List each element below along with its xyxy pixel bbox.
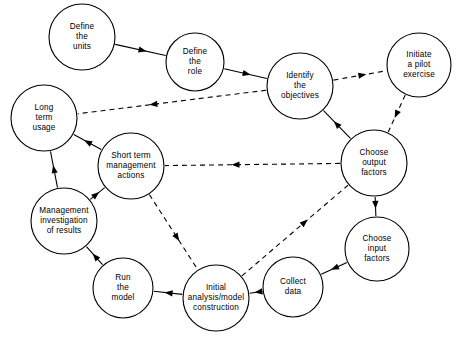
flowchart-svg: DefinetheunitsDefinetheroleIdentifytheob… <box>0 0 459 340</box>
flowchart-canvas: DefinetheunitsDefinetheroleIdentifytheob… <box>0 0 459 340</box>
node-label-line: term <box>36 113 53 122</box>
node-label: Longtermusage <box>32 104 55 132</box>
node-label-line: Initiate <box>406 51 432 60</box>
node-label-line: Long <box>35 104 54 113</box>
node-label-line: input <box>368 244 387 253</box>
node-label-line: model <box>111 293 134 302</box>
node-label-line: units <box>73 42 91 51</box>
node-label-line: the <box>76 32 88 41</box>
node-label-line: Define <box>70 23 95 32</box>
arrowhead-icon <box>84 140 93 147</box>
node-identify_objectives[interactable]: Identifytheobjectives <box>267 53 333 119</box>
node-label-line: the <box>189 57 201 66</box>
edge-choose_input-to-collect_data <box>321 263 347 275</box>
node-choose_input[interactable]: Chooseinputfactors <box>345 217 409 281</box>
node-label: Initiatea pilotexercise <box>403 51 435 79</box>
node-label-line: the <box>294 81 306 90</box>
node-collect_data[interactable]: Collectdata <box>263 257 323 317</box>
node-label-line: Run <box>115 274 131 283</box>
node-label-line: analysis/model <box>188 293 244 302</box>
arrowhead-icon <box>52 165 58 173</box>
arrowhead-icon <box>358 73 366 79</box>
node-label-line: of results <box>47 226 82 235</box>
node-label-line: management <box>106 161 156 170</box>
edge-choose_output-to-short_term_actions <box>165 162 340 168</box>
node-label-line: exercise <box>403 70 435 79</box>
edge-run_model-to-mgmt_investigation <box>86 247 102 265</box>
edge-line <box>165 163 340 165</box>
arrowhead-icon <box>242 70 250 76</box>
edge-initiate_pilot-to-choose_output <box>388 95 405 132</box>
edge-short_term_actions-to-long_term_usage <box>74 134 101 149</box>
node-label-line: Identify <box>286 72 314 81</box>
node-label-line: a pilot <box>408 60 431 69</box>
node-run_model[interactable]: Runthemodel <box>93 258 153 318</box>
edge-define_units-to-define_role <box>115 44 166 55</box>
node-long_term_usage[interactable]: Longtermusage <box>11 85 77 151</box>
edge-collect_data-to-initial_analysis <box>250 288 263 294</box>
edge-short_term_actions-to-initial_analysis <box>149 195 197 270</box>
node-label-line: Initial <box>206 284 226 293</box>
node-label-line: investigation <box>40 216 88 225</box>
edge-line <box>78 90 267 114</box>
node-label-line: Choose <box>362 235 391 244</box>
node-label-line: Short term <box>111 152 151 161</box>
arrowhead-icon <box>172 233 179 241</box>
node-label-line: Management <box>39 207 89 216</box>
node-mgmt_investigation[interactable]: Managementinvestigationof results <box>31 188 97 254</box>
node-label-line: Choose <box>359 149 388 158</box>
edge-mgmt_investigation-to-short_term_actions <box>90 188 104 200</box>
node-label-line: construction <box>193 303 239 312</box>
node-label-line: Collect <box>280 277 307 286</box>
edge-choose_output-to-identify_objectives <box>324 111 351 139</box>
node-label-line: factors <box>364 254 390 263</box>
node-label-line: role <box>188 67 203 76</box>
arrowhead-icon <box>165 290 173 296</box>
arrowhead-icon <box>372 201 378 209</box>
node-initial_analysis[interactable]: Initialanalysis/modelconstruction <box>183 265 249 331</box>
nodes-layer: DefinetheunitsDefinetheroleIdentifytheob… <box>11 4 451 331</box>
arrowhead-icon <box>231 162 239 168</box>
node-label-line: usage <box>32 123 55 132</box>
node-label-line: actions <box>118 171 145 180</box>
edge-identify_objectives-to-long_term_usage <box>78 90 267 114</box>
edge-line <box>149 195 197 270</box>
edge-define_role-to-identify_objectives <box>224 69 267 79</box>
node-initiate_pilot[interactable]: Initiatea pilotexercise <box>387 33 451 97</box>
node-choose_output[interactable]: Chooseoutputfactors <box>341 130 407 196</box>
edge-identify_objectives-to-initiate_pilot <box>333 71 386 80</box>
arrowhead-icon <box>300 220 308 228</box>
arrowhead-icon <box>138 47 146 53</box>
node-short_term_actions[interactable]: Short termmanagementactions <box>98 133 164 199</box>
node-label-line: data <box>285 287 302 296</box>
node-label-line: objectives <box>281 91 319 100</box>
edge-choose_output-to-choose_input <box>372 197 378 216</box>
node-label: Chooseoutputfactors <box>359 149 388 177</box>
arrowhead-icon <box>331 264 340 270</box>
arrowhead-icon <box>395 109 401 118</box>
node-define_role[interactable]: Definetherole <box>166 33 224 91</box>
edge-initial_analysis-to-run_model <box>154 290 182 296</box>
arrowhead-icon <box>149 101 157 107</box>
arrowhead-icon <box>254 288 262 294</box>
edge-mgmt_investigation-to-long_term_usage <box>50 151 57 187</box>
node-label-line: factors <box>361 168 387 177</box>
node-define_units[interactable]: Definetheunits <box>49 4 115 70</box>
node-label-line: the <box>117 283 129 292</box>
node-label-line: output <box>362 158 386 167</box>
node-label-line: Define <box>183 48 208 57</box>
